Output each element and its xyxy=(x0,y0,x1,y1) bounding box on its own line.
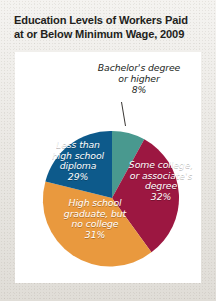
page-title-line-1: Education Levels of Workers Paid xyxy=(14,14,188,26)
callout-leader-line xyxy=(122,102,126,126)
chart-panel: Bachelor's degree or higher 8% Less than… xyxy=(15,52,201,283)
pie-chart-svg xyxy=(15,52,201,283)
page-title-line-2: at or Below Minimum Wage, 2009 xyxy=(14,28,184,40)
pie-chart-figure: Education Levels of Workers Paid at or B… xyxy=(0,0,216,301)
page-title: Education Levels of Workers Paid at or B… xyxy=(14,13,204,41)
